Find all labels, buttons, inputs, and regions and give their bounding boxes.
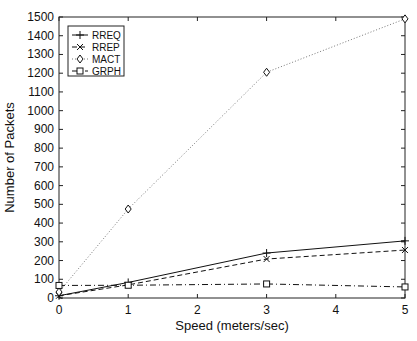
y-tick-label: 400 <box>34 216 54 230</box>
y-tick-label: 900 <box>34 122 54 136</box>
y-tick-label: 600 <box>34 179 54 193</box>
y-tick-label: 1400 <box>27 29 54 43</box>
y-tick-label: 0 <box>47 291 54 305</box>
y-axis-label: Number of Packets <box>2 102 17 213</box>
x-tick-label: 3 <box>263 303 270 317</box>
x-tick-label: 4 <box>332 303 339 317</box>
y-tick-label: 1200 <box>27 66 54 80</box>
y-tick-label: 200 <box>34 254 54 268</box>
line-chart: 0100200300400500600700800900100011001200… <box>0 0 417 341</box>
y-tick-label: 1100 <box>28 85 54 99</box>
y-tick-label: 1000 <box>27 104 54 118</box>
legend: RREQRREPMACTGRPH <box>68 26 124 77</box>
legend-label: RREQ <box>92 30 121 41</box>
x-tick-label: 5 <box>402 303 409 317</box>
y-tick-label: 1500 <box>27 10 54 24</box>
y-tick-label: 800 <box>34 141 54 155</box>
legend-label: RREP <box>92 42 120 53</box>
y-tick-label: 700 <box>34 160 54 174</box>
series-rreq <box>55 237 409 300</box>
y-tick-label: 500 <box>34 197 54 211</box>
y-tick-label: 100 <box>34 272 54 286</box>
legend-label: GRPH <box>92 66 121 77</box>
y-tick-label: 1300 <box>27 47 54 61</box>
x-axis-label: Speed (meters/sec) <box>175 318 288 333</box>
series-rrep <box>56 247 408 299</box>
x-tick-label: 1 <box>125 303 132 317</box>
x-tick-label: 0 <box>56 303 63 317</box>
y-tick-label: 300 <box>34 235 54 249</box>
x-tick-label: 2 <box>194 303 201 317</box>
series-grph <box>56 281 408 290</box>
legend-label: MACT <box>92 54 120 65</box>
